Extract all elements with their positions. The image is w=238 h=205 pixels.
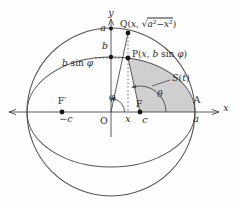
theta-angle-label: θ — [157, 90, 162, 99]
ellipse-auxiliary-circle-figure: y x a b Q(x, √a²−x²) P(x, b sin φ) b sin… — [0, 0, 238, 205]
dot-b-intercept — [109, 55, 113, 59]
figure-canvas — [0, 0, 238, 205]
b-sin-phi-label: b sin φ — [50, 59, 93, 68]
dot-point-p — [126, 56, 131, 61]
b-intercept-label: b — [102, 41, 108, 51]
x-axis-label: x — [223, 103, 228, 113]
phi-angle-arc — [114, 99, 125, 112]
focus-f-label: F — [136, 99, 143, 109]
point-p-label: P(x, b sin φ) — [132, 50, 187, 59]
a-vertex-coord-label: a — [193, 114, 199, 124]
origin-label: O — [100, 116, 108, 126]
phi-angle-label: φ — [109, 93, 115, 102]
dot-a-intercept — [109, 27, 113, 31]
dot-point-q — [126, 31, 131, 36]
vertex-a-label: A — [194, 95, 201, 105]
x-foot-label: x — [125, 114, 130, 124]
minus-c-label: −c — [59, 114, 72, 124]
y-axis-label: y — [108, 8, 113, 18]
region-s-label: S(t) — [172, 73, 190, 83]
point-q-label: Q(x, √a²−x²) — [120, 20, 176, 29]
focus-f-prime-label: F′ — [58, 96, 67, 106]
a-intercept-label: a — [100, 23, 106, 33]
c-label: c — [142, 115, 147, 125]
